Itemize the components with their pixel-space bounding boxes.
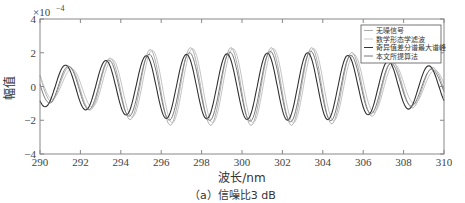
figure-caption: （a）信噪比3 dB <box>0 186 465 202</box>
y-scale-label: ×10 −4 <box>33 4 65 18</box>
x-tick-label: 292 <box>72 156 89 168</box>
svg-text:−4: −4 <box>56 4 65 13</box>
legend-entry: 无噪信号 <box>376 26 404 35</box>
line-chart: 290292294296298300302304306308310 420−2−… <box>0 0 465 203</box>
y-tick-label: −2 <box>24 114 36 126</box>
x-tick-label: 300 <box>234 156 251 168</box>
y-tick-label: −4 <box>24 148 36 160</box>
x-tick-label: 310 <box>436 156 453 168</box>
x-tick-label: 308 <box>395 156 412 168</box>
x-tick-label: 306 <box>355 156 372 168</box>
x-axis-title: 波长/nm <box>218 171 265 185</box>
x-tick-label: 296 <box>153 156 170 168</box>
legend-entry: 本文所提算法 <box>376 52 418 61</box>
x-tick-label: 304 <box>315 156 332 168</box>
svg-text:×10: ×10 <box>33 6 51 18</box>
legend-entry: 数学形态学滤波 <box>376 35 425 44</box>
y-tick-label: 2 <box>31 47 37 59</box>
y-tick-label: 0 <box>31 81 37 93</box>
x-tick-label: 302 <box>274 156 291 168</box>
y-axis-title: 幅值 <box>2 76 17 100</box>
legend: 无噪信号数学形态学滤波奇异值差分谱最大谱峰本文所提算法 <box>361 25 446 63</box>
legend-entry: 奇异值差分谱最大谱峰 <box>376 43 446 52</box>
x-tick-label: 294 <box>113 156 130 168</box>
x-tick-label: 298 <box>193 156 210 168</box>
